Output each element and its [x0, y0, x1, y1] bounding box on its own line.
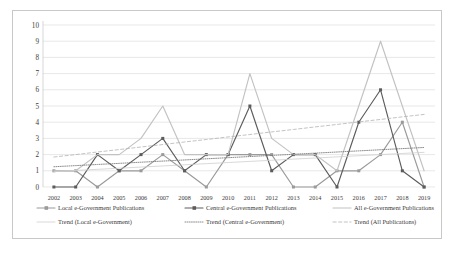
x-axis-label-2016: 2016 [353, 194, 365, 201]
series-marker-local [248, 153, 251, 156]
series-marker-central [270, 169, 273, 172]
x-axis-label-2005: 2005 [113, 194, 125, 201]
legend-marker-central [193, 206, 197, 210]
y-axis-label-6: 6 [35, 86, 39, 94]
y-axis-label-3: 3 [35, 135, 39, 143]
series-marker-central [248, 105, 251, 108]
y-axis-label-8: 8 [35, 54, 39, 62]
y-axis-label-0: 0 [35, 184, 39, 192]
series-marker-local [205, 186, 208, 189]
series-marker-central [118, 169, 121, 172]
x-axis-label-2012: 2012 [265, 194, 277, 201]
x-axis-label-2018: 2018 [396, 194, 408, 201]
x-axis-label-2019: 2019 [418, 194, 430, 201]
legend-label-central[interactable]: Central e-Government Publications [206, 204, 297, 211]
x-axis-label-2008: 2008 [178, 194, 190, 201]
x-axis-label-2010: 2010 [222, 194, 234, 201]
series-marker-central [74, 186, 77, 189]
series-marker-central [52, 186, 55, 189]
y-axis-label-5: 5 [35, 103, 39, 111]
series-marker-central [423, 186, 426, 189]
chart-plot-area: 0123456789102002200320042005200620072008… [13, 11, 443, 240]
x-axis-label-2007: 2007 [157, 194, 169, 201]
series-marker-local [401, 121, 404, 124]
legend-label-local[interactable]: Local e-Government Publications [58, 204, 145, 211]
legend-label-trend_central[interactable]: Trend (Central e-Government) [206, 218, 284, 226]
series-marker-local [292, 186, 295, 189]
series-marker-central [183, 169, 186, 172]
series-marker-local [314, 186, 317, 189]
x-axis-label-2014: 2014 [309, 194, 321, 201]
legend-marker-local [45, 206, 49, 210]
y-axis-label-4: 4 [35, 119, 39, 127]
y-axis-label-7: 7 [35, 70, 39, 78]
legend-label-trend_local[interactable]: Trend (Local e-Government) [58, 218, 132, 226]
x-axis-label-2011: 2011 [244, 194, 256, 201]
chart-figure: 0123456789102002200320042005200620072008… [0, 0, 454, 253]
line-chart-svg: 0123456789102002200320042005200620072008… [13, 11, 443, 240]
x-axis-label-2013: 2013 [287, 194, 299, 201]
x-axis-label-2003: 2003 [69, 194, 81, 201]
y-axis-label-10: 10 [32, 22, 40, 30]
series-marker-local [357, 169, 360, 172]
x-axis-label-2006: 2006 [135, 194, 147, 201]
y-axis-label-9: 9 [35, 38, 39, 46]
x-axis-label-2017: 2017 [374, 194, 386, 201]
series-line-trend_local [54, 152, 424, 171]
legend-label-trend_all[interactable]: Trend (All Publications) [354, 218, 416, 226]
series-marker-central [379, 88, 382, 91]
chart-frame: 0123456789102002200320042005200620072008… [12, 10, 442, 239]
series-marker-local [96, 186, 99, 189]
x-axis-label-2004: 2004 [91, 194, 103, 201]
series-marker-local [161, 153, 164, 156]
y-axis-label-2: 2 [35, 151, 39, 159]
series-marker-central [140, 153, 143, 156]
series-marker-local [140, 169, 143, 172]
x-axis-label-2002: 2002 [48, 194, 60, 201]
legend-label-all[interactable]: All e-Government Publications [354, 204, 434, 211]
series-marker-central [401, 169, 404, 172]
y-axis-label-1: 1 [35, 167, 39, 175]
series-marker-central [161, 137, 164, 140]
x-axis-label-2015: 2015 [331, 194, 343, 201]
x-axis-label-2009: 2009 [200, 194, 212, 201]
series-marker-central [336, 186, 339, 189]
